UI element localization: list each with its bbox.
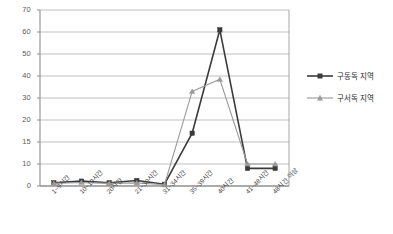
chart-container: 70605040302015100 1~9시간10~19시간20시간21~30시… (0, 0, 393, 234)
data-point-marker (245, 166, 249, 170)
legend-label-east: 구동독 지역 (337, 72, 374, 81)
series-line (54, 79, 275, 184)
data-point-marker (190, 131, 194, 135)
data-point-marker (217, 77, 223, 82)
data-point-marker (273, 166, 277, 170)
legend-marker-west (307, 92, 333, 104)
plot-area (0, 0, 393, 234)
legend-label-west: 구서독 지역 (337, 94, 374, 103)
legend-marker-east (307, 70, 333, 82)
series-east (52, 28, 278, 187)
series-line (54, 30, 275, 184)
data-point-marker (218, 28, 222, 32)
series-west (51, 77, 278, 187)
